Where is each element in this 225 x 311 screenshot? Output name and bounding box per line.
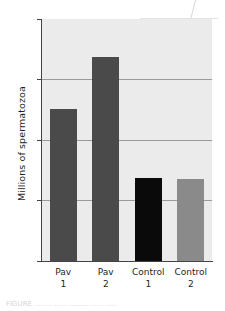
y-tick-mark [37, 19, 41, 20]
gridline [42, 79, 212, 80]
figure-container: Millions of spermatozoa 05101520 Pav1Pav… [0, 0, 225, 311]
x-tick-label: Control2 [165, 266, 217, 290]
bar-control-1 [135, 178, 162, 261]
bar-pav-1 [50, 109, 77, 261]
x-tick-label-line1: Control [165, 266, 217, 278]
x-tick-label-line2: 2 [165, 278, 217, 290]
y-axis-title: Millions of spermatozoa [16, 64, 27, 224]
y-tick-mark [37, 140, 41, 141]
bar-pav-2 [92, 57, 119, 261]
x-axis-line [41, 261, 213, 262]
y-tick-mark [37, 200, 41, 201]
figure-caption: FIGURE ........ ...... ........ ...... .… [6, 300, 221, 308]
y-tick-mark [37, 79, 41, 80]
y-tick-mark [37, 261, 41, 262]
bar-control-2 [177, 179, 204, 261]
y-axis-line [41, 19, 42, 262]
